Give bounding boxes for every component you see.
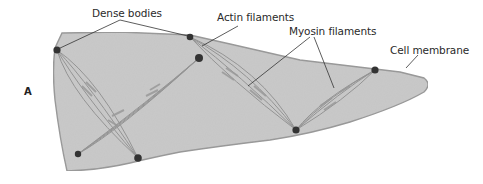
smooth-muscle-diagram: Dense bodies Actin filaments Myosin fila… [0, 0, 483, 184]
label-myosin-filaments: Myosin filaments [289, 25, 376, 37]
panel-letter: A [24, 86, 32, 97]
cell-membrane-outline [54, 32, 429, 171]
cell-illustration [0, 0, 483, 184]
label-actin-filaments: Actin filaments [217, 11, 294, 23]
label-dense-bodies: Dense bodies [92, 7, 162, 19]
label-cell-membrane: Cell membrane [390, 44, 469, 56]
